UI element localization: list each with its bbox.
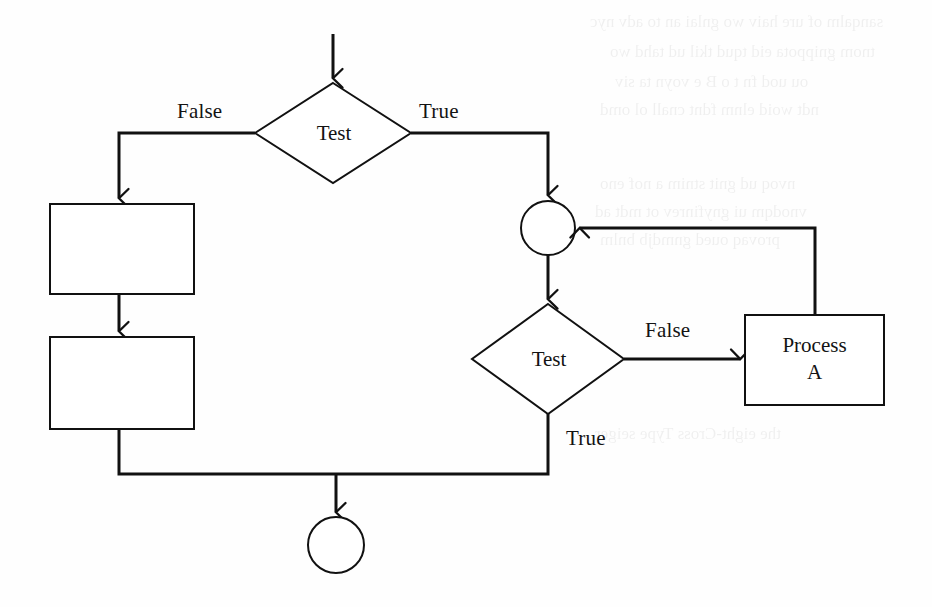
- edge-label-true-top: True: [419, 99, 459, 124]
- edge-decision-top-false: [119, 133, 255, 198]
- edge-decision-top-true: [411, 133, 548, 195]
- process-a-label-line1: Process: [745, 333, 884, 358]
- edge-label-false-bottom: False: [645, 318, 690, 343]
- flowchart-svg: [0, 0, 932, 607]
- process-box-1-shape: [50, 204, 194, 294]
- merge-circle-shape: [521, 201, 575, 255]
- process-box-2-shape: [50, 337, 194, 429]
- flowchart-canvas: sanqalm of ure haiv wo gnlai an to adv n…: [0, 0, 932, 607]
- edge-decision-bottom-true: [336, 414, 548, 474]
- edge-process-a-feedback-to-merge: [580, 228, 815, 315]
- edge-label-true-bottom: True: [566, 426, 606, 451]
- decision-test-top-label: Test: [295, 121, 373, 146]
- edge-label-false-top: False: [177, 99, 222, 124]
- edge-box2-to-bottom-rail: [119, 429, 336, 474]
- end-circle-shape: [308, 517, 364, 573]
- process-a-label-line2: A: [745, 360, 884, 385]
- decision-test-bottom-label: Test: [510, 347, 588, 372]
